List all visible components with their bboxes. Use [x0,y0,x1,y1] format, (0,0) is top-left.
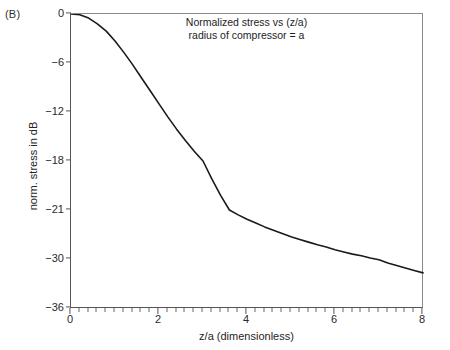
y-axis-label: norm. stress in dB [27,86,39,246]
x-minor-tick [290,308,291,312]
y-tick-label: 0 [0,7,64,19]
x-tick-mark [333,308,334,314]
x-tick-mark [157,308,158,314]
x-tick-mark [245,308,246,314]
x-minor-tick [87,308,88,312]
x-minor-tick [78,308,79,312]
curve-container [71,14,424,309]
x-minor-tick [202,308,203,312]
x-minor-tick [404,308,405,312]
y-tick-mark [66,61,71,62]
stress-curve [71,14,424,309]
curve-path [71,14,423,273]
x-minor-tick [351,308,352,312]
y-tick-label: −36 [0,301,64,313]
x-tick-label: 4 [243,313,249,325]
x-minor-tick [237,308,238,312]
x-minor-tick [395,308,396,312]
x-minor-tick [149,308,150,312]
x-minor-tick [105,308,106,312]
x-minor-tick [131,308,132,312]
x-minor-tick [298,308,299,312]
y-tick-mark [66,110,71,111]
x-minor-tick [378,308,379,312]
y-tick-mark [66,159,71,160]
x-minor-tick [219,308,220,312]
x-tick-mark [69,308,70,314]
x-minor-tick [210,308,211,312]
x-minor-tick [228,308,229,312]
x-tick-label: 0 [67,313,73,325]
x-minor-tick [175,308,176,312]
x-minor-tick [307,308,308,312]
x-minor-tick [281,308,282,312]
y-tick-label: −6 [0,56,64,68]
x-axis-label: z/a (dimensionless) [70,330,423,342]
x-minor-tick [342,308,343,312]
y-tick-mark [66,208,71,209]
x-tick-mark [421,308,422,314]
x-minor-tick [114,308,115,312]
plot-area [70,13,423,308]
x-minor-tick [360,308,361,312]
x-minor-tick [184,308,185,312]
x-minor-tick [263,308,264,312]
y-tick-mark [66,257,71,258]
x-minor-tick [369,308,370,312]
y-tick-label: −30 [0,252,64,264]
x-tick-label: 6 [331,313,337,325]
x-minor-tick [325,308,326,312]
x-minor-tick [122,308,123,312]
x-minor-tick [272,308,273,312]
x-minor-tick [254,308,255,312]
x-minor-tick [316,308,317,312]
x-tick-label: 8 [419,313,425,325]
x-minor-tick [193,308,194,312]
figure-panel: (B) Normalized stress vs (z/a) radius of… [0,0,450,350]
x-minor-tick [140,308,141,312]
y-tick-mark [66,12,71,13]
x-minor-tick [166,308,167,312]
x-minor-tick [413,308,414,312]
x-minor-tick [386,308,387,312]
x-minor-tick [96,308,97,312]
x-tick-label: 2 [155,313,161,325]
